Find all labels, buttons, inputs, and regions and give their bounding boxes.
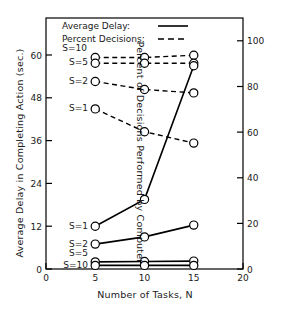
x-tick-0: 0 (43, 273, 49, 283)
right-tick-60: 60 (247, 128, 259, 138)
series-label-dashed-s1: S=1 (69, 103, 88, 113)
right-tick-100: 100 (247, 36, 264, 46)
chart-figure: 0 12 24 36 48 60 0 20 40 60 80 100 (0, 0, 290, 311)
series-label-dashed-s10: S=10 (62, 43, 87, 53)
series-label-solid-s10: S=10 (63, 260, 88, 270)
series-label-solid-s5: S=5 (69, 248, 88, 258)
x-tick-15: 15 (188, 273, 199, 283)
left-tick-48: 48 (31, 93, 43, 103)
left-axis-tick-labels: 0 12 24 36 48 60 (31, 51, 43, 275)
right-tick-80: 80 (247, 82, 259, 92)
legend-entry-average-delay: Average Delay: (62, 21, 130, 31)
left-tick-0: 0 (36, 265, 42, 275)
right-axis-tick-labels: 0 20 40 60 80 100 (247, 36, 264, 274)
right-axis-ticks (237, 41, 243, 269)
left-axis-ticks (46, 55, 52, 269)
x-tick-20: 20 (237, 273, 249, 283)
bottom-axis-tick-labels: 0 5 10 15 20 (43, 273, 249, 283)
left-tick-60: 60 (31, 51, 43, 61)
x-tick-5: 5 (92, 273, 98, 283)
chart-legend: Average Delay: Percent Decisions: (62, 21, 188, 44)
series-label-solid-s1: S=1 (69, 221, 88, 231)
series-label-dashed-s5: S=5 (69, 57, 88, 67)
left-tick-24: 24 (31, 179, 43, 189)
right-tick-40: 40 (247, 173, 259, 183)
y-axis-title-left: Average Delay in Completing Action (sec.… (14, 23, 30, 283)
series-label-dashed-s2: S=2 (69, 76, 88, 86)
right-tick-20: 20 (247, 219, 259, 229)
x-axis-title: Number of Tasks, N (46, 289, 244, 300)
left-tick-12: 12 (31, 222, 42, 232)
y-axis-title-right: Percent of Decisions Performed by Comput… (130, 20, 146, 285)
left-tick-36: 36 (31, 136, 43, 146)
